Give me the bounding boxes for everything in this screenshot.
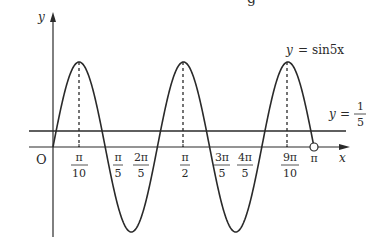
svg-text:π: π bbox=[114, 151, 121, 164]
y-axis: y bbox=[37, 10, 56, 237]
svg-text:9π: 9π bbox=[283, 151, 297, 164]
svg-text:3π: 3π bbox=[215, 151, 229, 164]
open-endpoint-circle bbox=[310, 143, 318, 151]
svg-text:10: 10 bbox=[72, 167, 86, 180]
tick-9pi-10: 9π 10 bbox=[281, 151, 299, 180]
y-axis-arrow-icon bbox=[50, 12, 56, 22]
tick-pi: π bbox=[310, 152, 317, 165]
x-axis-arrow-icon bbox=[339, 144, 350, 150]
sine-label-eq: = bbox=[298, 43, 308, 57]
peak-guides bbox=[79, 62, 287, 147]
svg-text:2π: 2π bbox=[134, 151, 148, 164]
svg-text:4π: 4π bbox=[238, 151, 252, 164]
svg-text:5: 5 bbox=[219, 167, 226, 180]
svg-text:2: 2 bbox=[182, 167, 189, 180]
svg-text:5: 5 bbox=[138, 167, 145, 180]
line-label-num: 1 bbox=[357, 100, 364, 113]
title-fragment: g bbox=[247, 0, 256, 6]
y-axis-label: y bbox=[37, 10, 45, 24]
svg-text:π: π bbox=[310, 152, 317, 165]
origin-label: O bbox=[36, 152, 47, 167]
sine-label-rhs: sin5x bbox=[312, 43, 344, 57]
tick-2pi-5: 2π 5 bbox=[133, 151, 149, 180]
sine-diagram: g y x O y = 1 5 y = sin5x bbox=[0, 0, 384, 243]
tick-pi-2: π 2 bbox=[180, 151, 190, 180]
svg-text:10: 10 bbox=[283, 167, 297, 180]
svg-text:π: π bbox=[75, 151, 82, 164]
x-tick-labels: π 10 π 5 2π 5 π 2 3π 5 4π bbox=[71, 151, 318, 180]
svg-text:5: 5 bbox=[115, 167, 122, 180]
tick-pi-10: π 10 bbox=[71, 151, 88, 180]
sine-label-lhs: y bbox=[285, 43, 293, 57]
line-label-lhs: y bbox=[328, 107, 336, 121]
line-label-eq: = bbox=[340, 107, 350, 121]
x-axis-label: x bbox=[339, 151, 346, 165]
svg-text:5: 5 bbox=[242, 167, 249, 180]
tick-4pi-5: 4π 5 bbox=[237, 151, 253, 180]
tick-3pi-5: 3π 5 bbox=[214, 151, 230, 180]
svg-text:π: π bbox=[181, 151, 188, 164]
line-label-den: 5 bbox=[357, 116, 364, 129]
tick-pi-5: π 5 bbox=[113, 151, 123, 180]
